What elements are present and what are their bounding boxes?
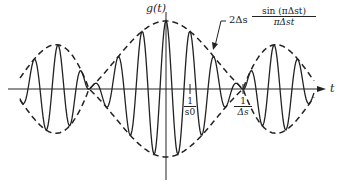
- tick-carrier-numerator: 1: [184, 96, 196, 106]
- t-axis-arrow-icon: [317, 86, 326, 92]
- tick-bandwidth-numerator: 1: [234, 96, 252, 106]
- tick-carrier-denominator: s0: [184, 106, 196, 117]
- envelope-prefix: 2Δs: [229, 14, 248, 25]
- tick-label-bandwidth: 1 Δs: [234, 96, 252, 117]
- envelope-denominator: πΔst: [252, 16, 316, 27]
- envelope-lower: [20, 89, 314, 157]
- y-axis-label: g(t): [146, 2, 166, 15]
- modulated-signal-curve: [20, 21, 314, 154]
- x-axis-label: t: [330, 82, 334, 95]
- tick-bandwidth-denominator: Δs: [234, 106, 252, 117]
- modulated-sinc-diagram: [0, 0, 341, 186]
- tick-label-carrier: 1 s0: [184, 96, 196, 117]
- envelope-numerator: sin (πΔst): [252, 6, 316, 16]
- envelope-upper: [20, 21, 314, 89]
- envelope-leader-line: [215, 21, 226, 46]
- envelope-formula: sin (πΔst) πΔst: [252, 6, 316, 27]
- leader-arrow-icon: [212, 42, 218, 50]
